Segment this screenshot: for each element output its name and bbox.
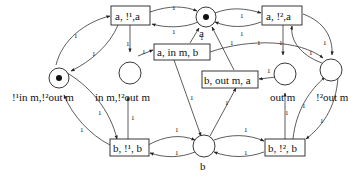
svg-text:1: 1 <box>190 94 194 102</box>
arcs <box>56 7 338 157</box>
svg-text:b, out m, a: b, out m, a <box>204 74 251 86</box>
transition-a2: a, !²,a <box>262 6 302 25</box>
place-bottom: b <box>193 135 215 172</box>
transition-b-out-m-a: b, out m, a <box>202 71 258 88</box>
place-top: a <box>196 7 216 39</box>
place-left: !¹in m,!²out m <box>12 68 74 103</box>
svg-text:1: 1 <box>285 109 289 117</box>
svg-text:1: 1 <box>98 109 102 117</box>
place-bottom-label: b <box>200 160 206 172</box>
svg-text:1: 1 <box>142 48 146 56</box>
svg-text:1: 1 <box>80 126 84 134</box>
svg-text:1: 1 <box>309 49 313 57</box>
svg-text:1: 1 <box>74 32 78 40</box>
svg-text:1: 1 <box>172 28 176 36</box>
place-mid-right: out m <box>270 63 296 103</box>
petri-net-diagram: 1 1 1 1 1 1 1 1 1 1 1 1 1 1 1 1 1 1 1 1 … <box>0 0 357 181</box>
token-icon <box>203 14 209 20</box>
svg-text:1: 1 <box>240 30 244 38</box>
svg-text:1: 1 <box>267 67 271 75</box>
svg-text:1: 1 <box>175 149 179 157</box>
place-top-label: a <box>199 27 204 39</box>
place-left-label: !¹in m,!²out m <box>12 91 74 103</box>
svg-text:1: 1 <box>172 4 176 12</box>
transition-b1: b, !¹, b <box>110 139 149 156</box>
svg-text:1: 1 <box>279 39 283 47</box>
svg-text:b, !¹, b: b, !¹, b <box>113 142 142 154</box>
place-mid-left: in m,!²out m <box>95 62 150 103</box>
svg-text:1: 1 <box>244 126 248 134</box>
svg-text:a, in m, b: a, in m, b <box>157 46 199 58</box>
svg-text:a, !²,a: a, !²,a <box>266 10 291 22</box>
svg-text:1: 1 <box>175 126 179 134</box>
svg-text:a, !¹,a: a, !¹,a <box>115 10 140 22</box>
svg-text:b, !², b: b, !², b <box>268 142 297 154</box>
svg-text:1: 1 <box>131 114 135 122</box>
place-mid-right-label: out m <box>270 91 296 103</box>
token-icon <box>56 75 62 81</box>
svg-text:1: 1 <box>257 39 261 47</box>
svg-text:1: 1 <box>230 39 234 47</box>
transition-a-in-m-b: a, in m, b <box>154 44 210 60</box>
transition-a1: a, !¹,a <box>111 6 150 25</box>
svg-text:1: 1 <box>92 50 96 58</box>
svg-text:1: 1 <box>244 149 248 157</box>
svg-text:1: 1 <box>126 40 130 48</box>
transition-b2: b, !², b <box>265 139 305 156</box>
svg-text:1: 1 <box>225 99 229 107</box>
place-mid-left-label: in m,!²out m <box>95 91 150 103</box>
svg-text:1: 1 <box>323 39 327 47</box>
svg-text:1: 1 <box>240 12 244 20</box>
place-right-label: !²out m <box>316 91 349 103</box>
svg-text:1: 1 <box>320 117 324 125</box>
svg-text:1: 1 <box>302 102 306 110</box>
